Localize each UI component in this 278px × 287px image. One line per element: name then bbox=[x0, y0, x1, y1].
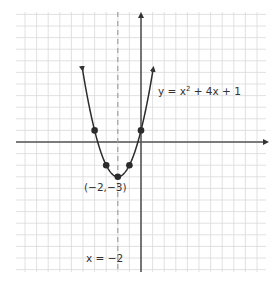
curve-point bbox=[115, 174, 122, 181]
curve-point bbox=[126, 162, 133, 169]
curve-point bbox=[91, 127, 98, 134]
parabola-graph: y = x2 + 4x + 1 (−2,−3) x = −2 bbox=[0, 0, 278, 287]
function-label: y = x2 + 4x + 1 bbox=[158, 85, 241, 97]
curve-point bbox=[103, 162, 110, 169]
vertex-label: (−2,−3) bbox=[84, 181, 127, 193]
axis-of-symmetry-label: x = −2 bbox=[86, 252, 123, 264]
curve-point bbox=[138, 127, 145, 134]
